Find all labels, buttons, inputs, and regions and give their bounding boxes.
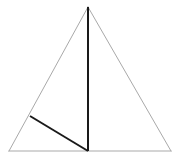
triangle-diagram-svg <box>0 0 181 159</box>
geometry-figure-canvas <box>0 0 181 159</box>
triangle-interior-fill <box>9 7 171 151</box>
